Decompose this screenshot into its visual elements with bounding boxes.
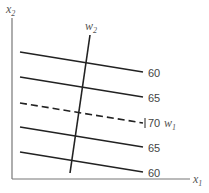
diagram-canvas: x2 x1 w2 w1 60 65 70 65 60 [0, 0, 209, 193]
line-label-65-lower: 65 [148, 142, 160, 154]
w1-label: w1 [164, 116, 176, 132]
w2-ray [70, 35, 90, 173]
w2-label: w2 [85, 19, 97, 35]
y-axis-label: x2 [5, 2, 15, 18]
line-label-70: 70 [148, 117, 160, 129]
line-label-60-top: 60 [148, 67, 160, 79]
line-70-dashed [20, 103, 143, 123]
line-60-top [20, 52, 143, 72]
x-axis-label: x1 [192, 172, 202, 188]
line-label-60-bottom: 60 [148, 167, 160, 179]
line-60-bottom [20, 152, 143, 172]
line-65-lower [20, 127, 143, 147]
line-label-65-upper: 65 [148, 92, 160, 104]
